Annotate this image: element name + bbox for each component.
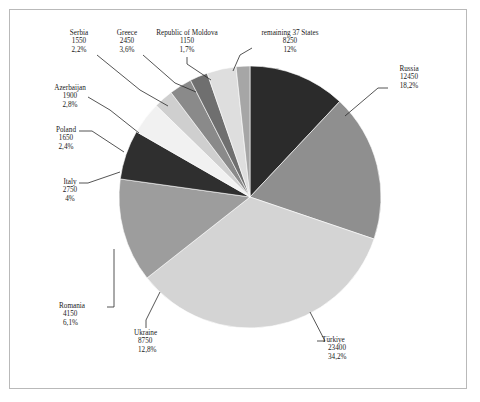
label-ukraine-value: 8750 — [134, 337, 188, 345]
label-turkiye-value: 23400 — [322, 344, 384, 352]
label-italy-value: 2750 — [50, 186, 90, 194]
label-italy-name: Italy — [50, 178, 90, 186]
label-remaining-37-states: remaining 37 States 8250 12% — [245, 29, 335, 54]
label-turkiye-percent: 34,2% — [322, 353, 384, 361]
label-serbia-value: 1550 — [50, 37, 108, 45]
label-ukraine-percent: 12,8% — [134, 346, 188, 354]
label-russia-percent: 18,2% — [383, 82, 435, 90]
pie-slice-group — [119, 66, 381, 328]
label-ukraine-name: Ukraine — [134, 329, 188, 337]
label-republic-of-moldova: Republic of Moldova 1150 1,7% — [144, 29, 230, 54]
label-russia: Russia 12450 18,2% — [383, 65, 435, 90]
label-azerbaijan-percent: 2,8% — [42, 101, 98, 109]
label-remaining-name: remaining 37 States — [245, 29, 335, 37]
leader-line-romania — [107, 249, 114, 307]
label-serbia-percent: 2,2% — [50, 46, 108, 54]
label-ukraine: Ukraine 8750 12,8% — [134, 329, 188, 354]
label-turkiye-name: Türkiye — [322, 336, 384, 344]
leader-line-ukraine — [146, 292, 160, 328]
label-italy: Italy 2750 4% — [50, 178, 90, 203]
label-remaining-percent: 12% — [245, 46, 335, 54]
label-russia-name: Russia — [383, 65, 435, 73]
label-azerbaijan-value: 1900 — [42, 92, 98, 100]
label-poland-name: Poland — [44, 126, 88, 134]
label-italy-percent: 4% — [50, 195, 90, 203]
label-turkiye: Türkiye 23400 34,2% — [322, 336, 384, 361]
label-remaining-value: 8250 — [245, 37, 335, 45]
label-romania-value: 4150 — [59, 310, 111, 318]
label-romania-percent: 6,1% — [59, 319, 111, 327]
label-poland-percent: 2,4% — [44, 143, 88, 151]
label-russia-value: 12450 — [383, 73, 435, 81]
label-azerbaijan-name: Azerbaijan — [42, 84, 98, 92]
label-moldova-percent: 1,7% — [144, 46, 230, 54]
label-moldova-name: Republic of Moldova — [144, 29, 230, 37]
leader-line-russia — [345, 88, 388, 116]
label-romania: Romania 4150 6,1% — [59, 302, 111, 327]
label-azerbaijan: Azerbaijan 1900 2,8% — [42, 84, 98, 109]
label-serbia-name: Serbia — [50, 29, 108, 37]
label-moldova-value: 1150 — [144, 37, 230, 45]
label-romania-name: Romania — [59, 302, 111, 310]
label-poland-value: 1650 — [44, 134, 88, 142]
label-poland: Poland 1650 2,4% — [44, 126, 88, 151]
label-serbia: Serbia 1550 2,2% — [50, 29, 108, 54]
leader-line-serbia — [97, 55, 168, 106]
